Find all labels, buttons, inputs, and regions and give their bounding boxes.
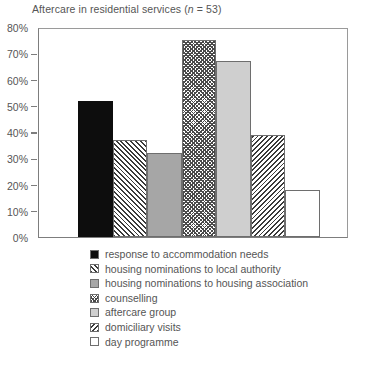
y-axis-tick-label: 50% [7, 101, 28, 113]
chart-title-prefix: Aftercare in residential services ( [32, 3, 188, 15]
bar [251, 135, 286, 237]
legend-item: response to accommodation needs [90, 247, 360, 262]
bar [147, 153, 182, 237]
legend-item-label: domiciliary visits [105, 322, 181, 333]
legend-swatch-icon [90, 250, 99, 259]
y-axis-tick-label: 80% [7, 22, 28, 34]
y-axis-tick-mark [31, 80, 37, 81]
y-axis-tick-mark [31, 132, 37, 133]
y-axis-tick-label: 30% [7, 153, 28, 165]
legend-item: domiciliary visits [90, 320, 360, 335]
bar [216, 61, 251, 237]
bar-chart-figure: Aftercare in residential services (n = 5… [0, 0, 378, 373]
legend-swatch-icon [90, 294, 99, 303]
y-axis-tick-label: 10% [7, 206, 28, 218]
legend-item-label: housing nominations to housing associati… [105, 278, 308, 289]
bar [285, 190, 320, 237]
y-axis-tick-mark [31, 106, 37, 107]
y-axis-tick-mark [31, 211, 37, 212]
chart-title: Aftercare in residential services (n = 5… [32, 3, 222, 15]
legend-item: day programme [90, 335, 360, 350]
legend-swatch-icon [90, 337, 99, 346]
legend-swatch-icon [90, 264, 99, 273]
legend-swatch-icon [90, 323, 99, 332]
y-axis-tick-label: 70% [7, 48, 28, 60]
legend-item: counselling [90, 291, 360, 306]
y-axis-tick-mark [31, 185, 37, 186]
bar [78, 101, 113, 238]
legend-swatch-icon [90, 279, 99, 288]
legend-item-label: day programme [105, 337, 179, 348]
legend-item-label: counselling [105, 293, 158, 304]
y-axis-tick-mark [31, 54, 37, 55]
chart-title-suffix: = 53) [194, 3, 222, 15]
y-axis-tick-mark [31, 159, 37, 160]
legend-swatch-icon [90, 308, 99, 317]
y-axis-tick-label: 0% [13, 232, 28, 244]
bar [182, 40, 217, 237]
bar [113, 140, 148, 237]
legend-item-label: response to accommodation needs [105, 249, 268, 260]
chart-legend: response to accommodation needshousing n… [90, 247, 360, 349]
y-axis: 80%70%60%50%40%30%20%10%0% [0, 28, 36, 238]
legend-item-label: aftercare group [105, 307, 176, 318]
bars-layer [38, 28, 348, 238]
y-axis-tick-label: 60% [7, 75, 28, 87]
legend-item: aftercare group [90, 305, 360, 320]
legend-item: housing nominations to housing associati… [90, 276, 360, 291]
legend-item: housing nominations to local authority [90, 262, 360, 277]
y-axis-tick-label: 40% [7, 127, 28, 139]
legend-item-label: housing nominations to local authority [105, 264, 281, 275]
y-axis-tick-label: 20% [7, 180, 28, 192]
